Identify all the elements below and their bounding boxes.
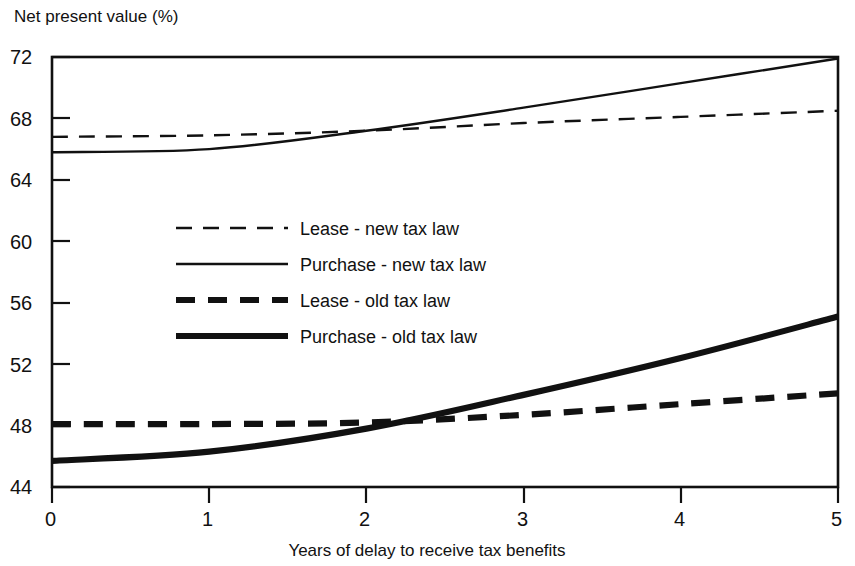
y-tick-label-68: 68	[10, 108, 32, 130]
legend-label-purchase-new-tax-law: Purchase - new tax law	[300, 255, 487, 275]
y-tick-label-60: 60	[10, 231, 32, 253]
y-axis-title: Net present value (%)	[14, 7, 178, 26]
y-tick-label-52: 52	[10, 354, 32, 376]
chart-background	[0, 0, 855, 566]
x-tick-label-1: 1	[202, 508, 213, 530]
legend-label-purchase-old-tax-law: Purchase - old tax law	[300, 327, 478, 347]
x-tick-label-2: 2	[359, 508, 370, 530]
y-tick-label-72: 72	[10, 46, 32, 68]
y-tick-label-44: 44	[10, 476, 32, 498]
x-tick-label-4: 4	[674, 508, 685, 530]
y-tick-label-64: 64	[10, 169, 32, 191]
legend-label-lease-old-tax-law: Lease - old tax law	[300, 291, 451, 311]
y-tick-label-48: 48	[10, 415, 32, 437]
y-tick-label-56: 56	[10, 292, 32, 314]
x-tick-label-0: 0	[45, 508, 56, 530]
x-axis-title: Years of delay to receive tax benefits	[288, 541, 565, 560]
x-tick-label-5: 5	[831, 508, 842, 530]
x-tick-label-3: 3	[517, 508, 528, 530]
legend-label-lease-new-tax-law: Lease - new tax law	[300, 219, 460, 239]
npv-line-chart: Net present value (%) 72 68 64 60 56 52 …	[0, 0, 855, 566]
